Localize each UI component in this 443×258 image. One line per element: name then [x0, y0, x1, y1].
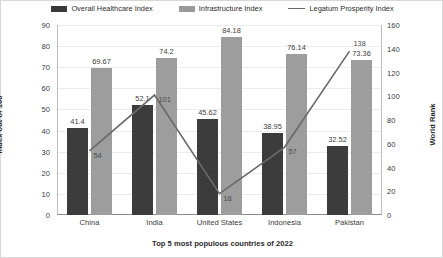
x-axis-category-labels: ChinaIndiaUnited StatesIndonesiaPakistan	[57, 218, 382, 232]
y-axis-title-right: World Rank	[428, 103, 437, 145]
y-axis-tick-right: 80	[387, 116, 411, 125]
bar-group: 38.9576.14	[252, 25, 317, 215]
legend-label: Infrastructure Index	[199, 4, 263, 13]
y-axis-tick-right: 160	[387, 21, 411, 30]
y-axis-tick-left: 10	[28, 189, 50, 198]
line-data-label: 101	[159, 95, 171, 104]
x-axis-category-label: Indonesia	[252, 218, 317, 232]
bar-data-label: 52.1	[135, 94, 149, 103]
bar[interactable]: 38.95	[262, 133, 283, 215]
bar[interactable]: 41.4	[67, 128, 88, 215]
bar-data-label: 69.67	[92, 57, 111, 66]
bar-data-label: 74.2	[159, 47, 173, 56]
y-axis-tick-left: 50	[28, 105, 50, 114]
legend-label: Overall Healthcare Index	[71, 4, 152, 13]
bar-data-label: 84.18	[222, 26, 241, 35]
y-axis-tick-right: 20	[387, 187, 411, 196]
y-axis-tick-left: 60	[28, 84, 50, 93]
y-axis-title-left: Index out of 100	[0, 96, 4, 154]
y-axis-tick-left: 90	[28, 21, 50, 30]
bar-group: 45.6284.18	[187, 25, 252, 215]
line-swatch-icon	[288, 8, 305, 9]
line-data-label: 18	[224, 193, 232, 202]
bar[interactable]: 45.62	[197, 119, 218, 215]
y-axis-tick-right: 100	[387, 92, 411, 101]
x-axis-category-label: China	[57, 218, 122, 232]
x-axis-category-label: Pakistan	[317, 218, 382, 232]
chart-legend: Overall Healthcare Index Infrastructure …	[1, 4, 443, 13]
bar-data-label: 38.95	[263, 122, 282, 131]
bar[interactable]: 32.52	[327, 146, 348, 215]
light-bar-swatch-icon	[179, 6, 195, 12]
bar[interactable]: 76.14	[286, 54, 307, 215]
y-axis-tick-right: 40	[387, 163, 411, 172]
bar[interactable]: 84.18	[221, 37, 242, 215]
legend-item-infrastructure-index[interactable]: Infrastructure Index	[179, 4, 263, 13]
x-axis-category-label: United States	[187, 218, 252, 232]
y-axis-tick-right: 60	[387, 139, 411, 148]
bar-group: 32.5273.36	[317, 25, 382, 215]
bar[interactable]: 73.36	[351, 60, 372, 215]
y-axis-tick-right: 140	[387, 44, 411, 53]
dark-bar-swatch-icon	[51, 6, 67, 12]
bar-group: 52.174.2	[122, 25, 187, 215]
y-axis-tick-left: 70	[28, 63, 50, 72]
y-axis-tick-left: 30	[28, 147, 50, 156]
y-axis-tick-left: 0	[28, 211, 50, 220]
x-axis-category-label: India	[122, 218, 187, 232]
bar[interactable]: 52.1	[132, 105, 153, 215]
bar[interactable]: 69.67	[91, 68, 112, 215]
bar-data-label: 76.14	[287, 43, 306, 52]
line-data-label: 138	[354, 39, 366, 48]
bar-groups: 41.469.6752.174.245.6284.1838.9576.1432.…	[57, 25, 382, 215]
y-axis-tick-right: 120	[387, 68, 411, 77]
legend-item-overall-healthcare-index[interactable]: Overall Healthcare Index	[51, 4, 152, 13]
y-axis-tick-right: 0	[387, 211, 411, 220]
chart-container: Overall Healthcare Index Infrastructure …	[0, 0, 443, 258]
y-axis-tick-left: 20	[28, 168, 50, 177]
bar[interactable]: 74.2	[156, 58, 177, 215]
bar-data-label: 45.62	[198, 108, 217, 117]
plot-area: 41.469.6752.174.245.6284.1838.9576.1432.…	[57, 25, 382, 215]
y-axis-tick-left: 80	[28, 42, 50, 51]
bar-group: 41.469.67	[57, 25, 122, 215]
bar-data-label: 41.4	[70, 117, 84, 126]
line-data-label: 54	[94, 150, 102, 159]
y-axis-tick-left: 40	[28, 126, 50, 135]
legend-item-legatum-prosperity-index[interactable]: Legatum Prosperity Index	[288, 4, 393, 13]
bar-data-label: 32.52	[328, 135, 347, 144]
legend-label: Legatum Prosperity Index	[309, 4, 393, 13]
line-data-label: 57	[289, 147, 297, 156]
x-axis-title: Top 5 most populous countries of 2022	[1, 239, 443, 248]
bar-data-label: 73.36	[352, 49, 371, 58]
